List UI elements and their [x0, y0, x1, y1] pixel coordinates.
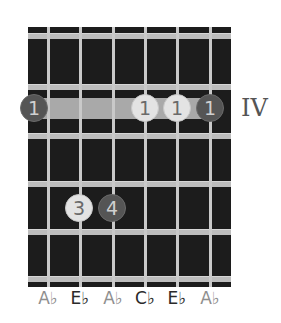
string-5	[176, 27, 179, 287]
fret-line-2	[28, 133, 231, 139]
fret-line-0	[28, 33, 231, 39]
fret-line-4	[28, 229, 231, 235]
finger-dot: 1	[131, 94, 159, 122]
finger-dot-root: 4	[98, 194, 126, 222]
finger-dot-root: 1	[196, 94, 224, 122]
finger-dot-root: 1	[20, 94, 48, 122]
string-6	[209, 27, 212, 287]
note-label: A♭	[194, 288, 226, 308]
string-2	[79, 27, 82, 287]
fret-line-5	[28, 276, 231, 282]
fret-position-label: IV	[241, 94, 268, 122]
fret-line-3	[28, 181, 231, 187]
note-label: E♭	[161, 288, 193, 308]
note-label: C♭	[129, 288, 161, 308]
string-3	[112, 27, 115, 287]
note-label: E♭	[64, 288, 96, 308]
note-label: A♭	[32, 288, 64, 308]
string-1	[47, 27, 50, 287]
fret-line-1	[28, 84, 231, 90]
string-4	[144, 27, 147, 287]
finger-dot: 3	[65, 194, 93, 222]
note-label: A♭	[97, 288, 129, 308]
fretboard	[28, 27, 231, 287]
finger-dot: 1	[163, 94, 191, 122]
